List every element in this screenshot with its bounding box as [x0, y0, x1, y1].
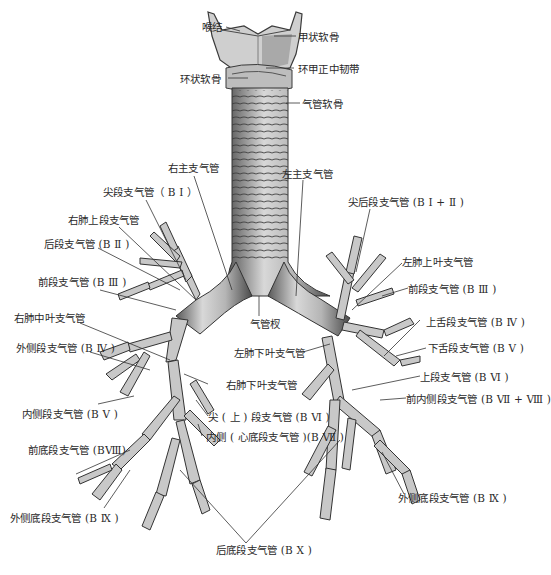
label-right-lower-lobe-bronchus: 右肺下叶支气管 [226, 379, 297, 391]
label-inferior-lingular: 下舌段支气管 (B Ⅴ ) [428, 342, 524, 354]
label-left-upper-lobe-bronchus: 左肺上叶支气管 [402, 256, 473, 268]
label-superior-lingular: 上舌段支气管 (B Ⅳ ) [426, 316, 525, 328]
label-right-middle-lobe-bronchus: 右肺中叶支气管 [14, 312, 85, 324]
label-anterior-basal-right: 前底段支气管 (BⅧ) [28, 444, 126, 456]
label-carina: 气管杈 [250, 318, 281, 330]
label-right-main-bronchus: 右主支气管 [168, 162, 219, 174]
label-lateral-segmental-right: 外侧段支气管 (B Ⅳ ) [16, 342, 115, 354]
label-anterior-segmental-right: 前段支气管 (B Ⅲ ) [38, 276, 126, 288]
label-apical-segmental-right: 尖段支气管（ B Ⅰ ） [103, 186, 197, 198]
label-anteromedial-basal-left: 前内侧段支气管 (B Ⅶ + Ⅷ ) [406, 393, 551, 405]
label-median-cricothyroid-ligament: 环甲正中韧带 [298, 63, 359, 75]
label-left-lower-lobe-bronchus: 左肺下叶支气管 [234, 347, 305, 359]
label-right-upper-lobe-bronchus: 右肺上段支气管 [68, 214, 139, 226]
label-lateral-basal-left: 外侧底段支气管 (B Ⅸ ) [398, 492, 507, 504]
label-laryngeal-prominence: 喉结 [202, 21, 222, 33]
label-posterior-segmental-right: 后段支气管 (B Ⅱ ) [44, 238, 129, 250]
label-cricoid-cartilage: 环状软骨 [180, 73, 221, 85]
label-medial-segmental-right: 内侧段支气管 (B Ⅴ ) [22, 408, 118, 420]
left-bronchial-branches [302, 236, 420, 520]
label-anterior-segmental-left: 前段支气管 (B Ⅲ ) [408, 283, 496, 295]
right-bronchial-branches [78, 222, 220, 530]
trachea [228, 88, 330, 296]
label-left-main-bronchus: 左主支气管 [282, 168, 333, 180]
label-thyroid-cartilage: 甲状软骨 [298, 31, 339, 43]
label-medial-basal-right: 内侧 ( 心底段支气管 )(B Ⅶ ) [206, 431, 344, 443]
label-superior-segmental-left: 上段支气管 (B Ⅵ ) [420, 371, 509, 383]
label-superior-segmental-right: 尖 ( 上 ) 段支气管 (B Ⅵ ) [208, 411, 330, 423]
label-lateral-basal-right: 外侧底段支气管 (B Ⅸ ) [10, 512, 119, 524]
label-tracheal-cartilage: 气管软骨 [302, 98, 343, 110]
label-apicoposterior-left: 尖后段支气管 (B Ⅰ + Ⅱ ) [348, 196, 464, 208]
label-posterior-basal: 后底段支气管 (B Ⅹ ) [216, 544, 312, 556]
